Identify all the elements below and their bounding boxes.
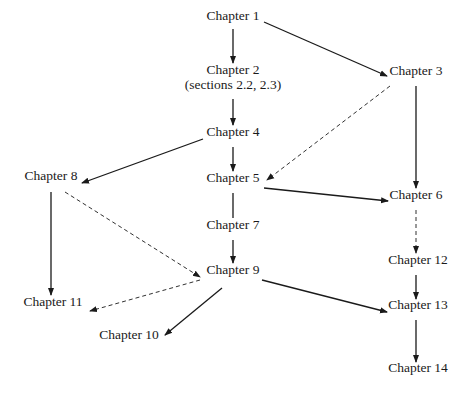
node-ch1: Chapter 1 [207, 8, 260, 23]
node-label: Chapter 9 [207, 262, 260, 277]
node-ch5: Chapter 5 [207, 170, 260, 185]
edge-ch3-to-ch5-dashed [267, 86, 390, 180]
node-ch2: Chapter 2(sections 2.2, 2.3) [185, 62, 281, 92]
node-ch13: Chapter 13 [388, 297, 448, 312]
node-label: Chapter 8 [25, 168, 78, 183]
edge-ch8-to-ch9-dashed [65, 192, 200, 277]
node-label: Chapter 5 [207, 170, 260, 185]
edge-ch9-to-ch10 [165, 288, 222, 335]
node-ch6: Chapter 6 [390, 187, 443, 202]
node-ch9: Chapter 9 [207, 262, 260, 277]
node-ch10: Chapter 10 [99, 327, 159, 342]
node-label: Chapter 6 [390, 187, 443, 202]
edge-ch9-to-ch11-dashed [90, 280, 200, 311]
edge-ch4-to-ch8 [82, 139, 203, 183]
node-ch14: Chapter 14 [388, 360, 448, 375]
node-ch11: Chapter 11 [23, 294, 82, 309]
node-label: Chapter 4 [207, 124, 260, 139]
node-label: Chapter 12 [388, 252, 448, 267]
node-ch4: Chapter 4 [207, 124, 260, 139]
node-label: Chapter 11 [23, 294, 82, 309]
node-label: Chapter 3 [390, 63, 443, 78]
chapter-dependency-diagram: Chapter 1Chapter 2(sections 2.2, 2.3)Cha… [0, 0, 474, 396]
node-label: Chapter 10 [99, 327, 159, 342]
node-label: Chapter 14 [388, 360, 448, 375]
node-ch8: Chapter 8 [25, 168, 78, 183]
edge-ch9-to-ch13 [262, 280, 387, 312]
node-sublabel: (sections 2.2, 2.3) [185, 77, 281, 92]
node-label: Chapter 13 [388, 297, 448, 312]
node-ch7: Chapter 7 [207, 217, 260, 232]
node-ch3: Chapter 3 [390, 63, 443, 78]
edge-ch5-to-ch6 [264, 188, 388, 201]
node-label: Chapter 1 [207, 8, 260, 23]
node-ch12: Chapter 12 [388, 252, 448, 267]
node-label: Chapter 2 [207, 62, 260, 77]
edge-ch1-to-ch3 [264, 22, 387, 76]
node-label: Chapter 7 [207, 217, 260, 232]
